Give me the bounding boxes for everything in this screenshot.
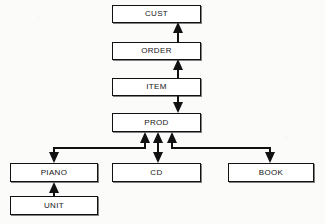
edge-item-to-order <box>173 59 183 78</box>
node-piano[interactable]: PIANO <box>10 163 98 182</box>
node-cust-label: CUST <box>145 10 168 18</box>
node-book-label: BOOK <box>259 169 284 177</box>
node-order-label: ORDER <box>141 47 172 55</box>
node-cd[interactable]: CD <box>112 163 201 182</box>
node-order[interactable]: ORDER <box>112 42 201 60</box>
node-cd-label: CD <box>150 169 162 177</box>
edge-order-to-cust <box>173 22 183 42</box>
edge-unit-to-piano <box>49 182 59 196</box>
node-cust[interactable]: CUST <box>112 5 201 23</box>
diagram-canvas: CUST ORDER ITEM PROD PIANO CD BOOK UNIT <box>0 0 325 224</box>
edge-item-to-prod <box>173 96 183 113</box>
connector-layer <box>0 0 325 224</box>
node-item[interactable]: ITEM <box>112 78 201 96</box>
node-piano-label: PIANO <box>41 169 68 177</box>
node-unit-label: UNIT <box>44 202 64 210</box>
node-prod[interactable]: PROD <box>112 113 201 132</box>
edge-prod-cd <box>153 132 163 163</box>
node-book[interactable]: BOOK <box>228 163 314 182</box>
node-unit[interactable]: UNIT <box>10 196 98 215</box>
edge-prod-book <box>167 132 275 163</box>
edge-prod-piano <box>49 132 150 163</box>
node-prod-label: PROD <box>144 119 169 127</box>
node-item-label: ITEM <box>146 83 167 91</box>
